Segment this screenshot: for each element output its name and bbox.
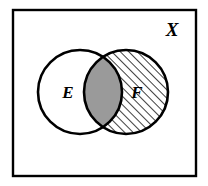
venn-diagram-canvas: X E F (0, 0, 208, 186)
left-set-label: E (61, 83, 73, 102)
right-set-label: F (130, 83, 143, 102)
venn-diagram-figure: X E F (0, 0, 208, 186)
universal-set-label: X (165, 19, 180, 40)
